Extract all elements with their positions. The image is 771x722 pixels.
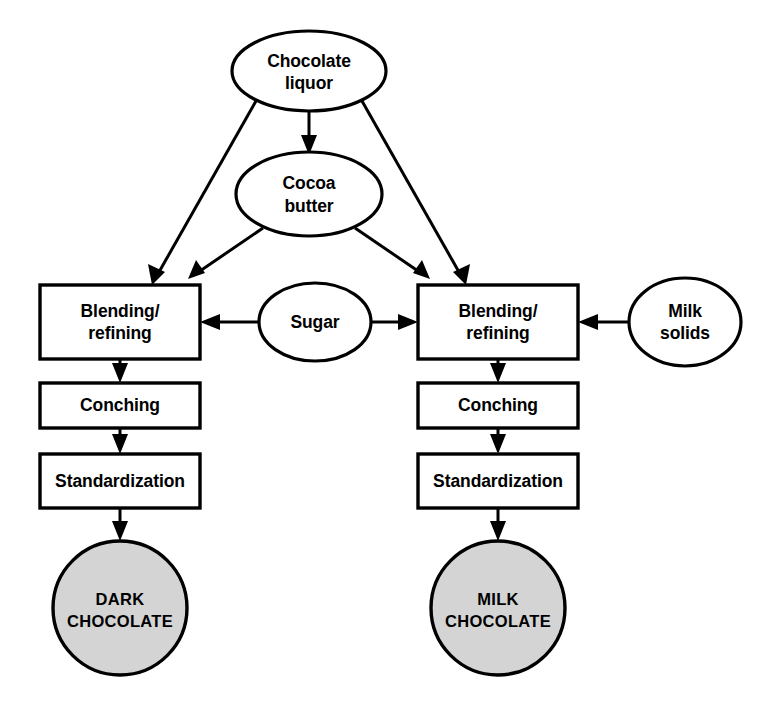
blending-refining-dark-label-line2: refining <box>88 323 151 343</box>
node-blending-refining-dark[interactable]: Blending/ refining <box>40 285 200 359</box>
edge-conching-milk-to-standardization-milk <box>490 428 506 454</box>
blending-refining-milk-label-line2: refining <box>466 323 529 343</box>
chocolate-liquor-label-line2: liquor <box>285 73 333 93</box>
chocolate-liquor-ellipse <box>232 31 386 111</box>
node-blending-refining-milk[interactable]: Blending/ refining <box>418 285 578 359</box>
blending-refining-dark-label-line1: Blending/ <box>81 301 160 321</box>
edge-standardization-milk-to-milk-chocolate <box>490 508 506 541</box>
flowchart-diagram: Chocolate liquor Cocoa butter Sugar Milk… <box>0 0 771 722</box>
node-sugar[interactable]: Sugar <box>259 283 371 361</box>
edge-conching-dark-to-standardization-dark <box>112 428 128 454</box>
node-standardization-milk[interactable]: Standardization <box>418 454 578 508</box>
nodes-layer: Chocolate liquor Cocoa butter Sugar Milk… <box>40 31 741 675</box>
chocolate-liquor-label-line1: Chocolate <box>267 51 351 71</box>
cocoa-butter-label-line2: butter <box>285 196 334 216</box>
node-standardization-dark[interactable]: Standardization <box>40 454 200 508</box>
edge-blending-dark-to-conching-dark <box>112 359 128 383</box>
edge-chocolate-liquor-to-cocoa-butter <box>301 111 317 155</box>
conching-dark-label: Conching <box>80 395 160 415</box>
node-milk-chocolate[interactable]: MILK CHOCOLATE <box>431 541 565 675</box>
node-conching-dark[interactable]: Conching <box>40 383 200 428</box>
edge-blending-milk-to-conching-milk <box>490 359 506 383</box>
milk-solids-label-line2: solids <box>660 323 710 343</box>
edge-cocoa-butter-to-blending-milk <box>355 228 430 279</box>
node-cocoa-butter[interactable]: Cocoa butter <box>236 152 382 236</box>
sugar-label: Sugar <box>290 312 339 332</box>
dark-chocolate-label-line1: DARK <box>96 590 145 608</box>
edge-milk-solids-to-blending-milk <box>578 314 629 330</box>
edge-sugar-to-blending-milk <box>371 314 418 330</box>
milk-solids-label-line1: Milk <box>668 301 702 321</box>
milk-chocolate-label-line1: MILK <box>477 590 519 608</box>
edge-cocoa-butter-to-blending-dark <box>188 228 263 279</box>
dark-chocolate-label-line2: CHOCOLATE <box>67 612 173 630</box>
milk-chocolate-label-line2: CHOCOLATE <box>445 612 551 630</box>
node-conching-milk[interactable]: Conching <box>418 383 578 428</box>
cocoa-butter-ellipse <box>236 152 382 236</box>
blending-refining-milk-label-line1: Blending/ <box>459 301 538 321</box>
node-milk-solids[interactable]: Milk solids <box>629 278 741 366</box>
edge-sugar-to-blending-dark <box>200 314 259 330</box>
edge-standardization-dark-to-dark-chocolate <box>112 508 128 541</box>
standardization-dark-label: Standardization <box>55 471 185 491</box>
node-chocolate-liquor[interactable]: Chocolate liquor <box>232 31 386 111</box>
flowchart-canvas: Chocolate liquor Cocoa butter Sugar Milk… <box>0 0 771 722</box>
conching-milk-label: Conching <box>458 395 538 415</box>
standardization-milk-label: Standardization <box>433 471 563 491</box>
node-dark-chocolate[interactable]: DARK CHOCOLATE <box>53 541 187 675</box>
cocoa-butter-label-line1: Cocoa <box>283 173 336 193</box>
